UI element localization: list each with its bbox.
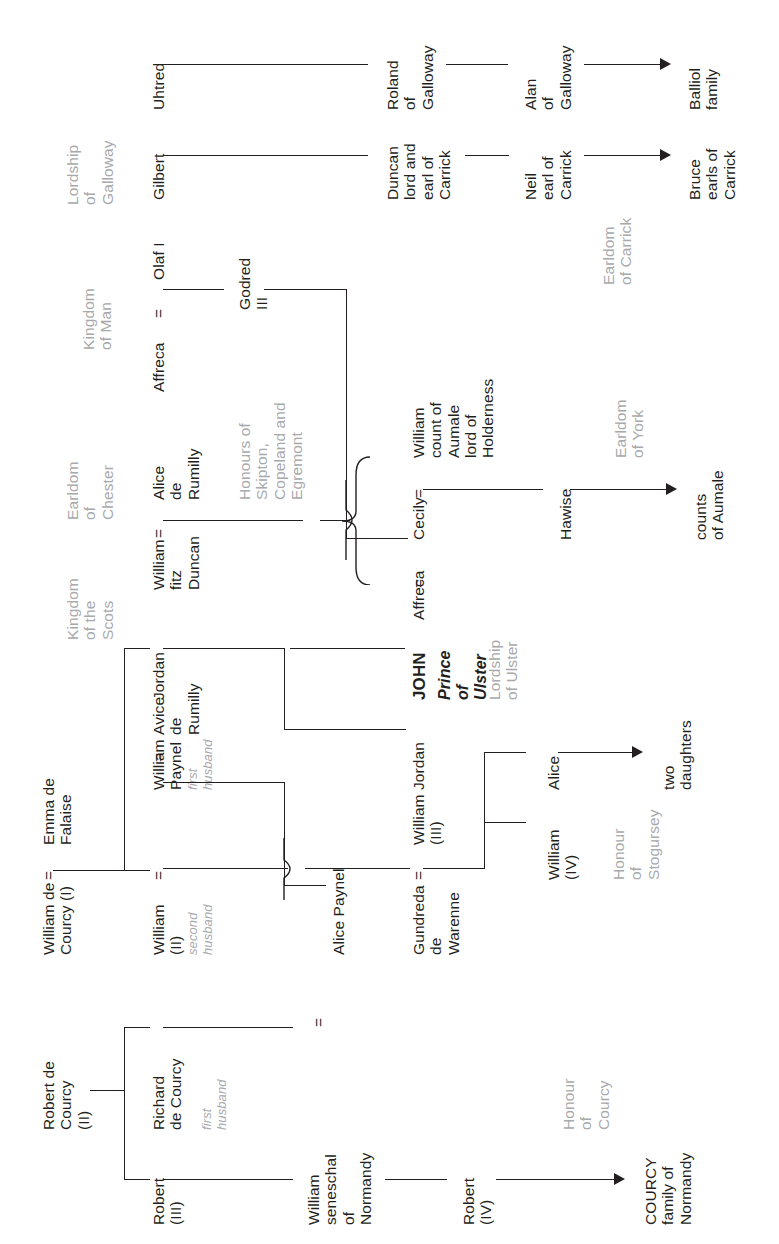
arrow-to-bruce-earls-of-carrick: [660, 149, 671, 161]
annotation-earldom-of-carrick: Earldom of Carrick: [600, 218, 635, 285]
line-hop-crossing-2: [268, 838, 308, 900]
person-alice-de-rumilly: Alice de Rumilly: [150, 448, 202, 500]
line-hawise-to-counts-of-aumale: [570, 489, 668, 490]
person-alice-daughter: Alice: [545, 756, 562, 790]
person-bruce-earls-of-carrick: Bruce earls of Carrick: [686, 148, 738, 200]
column-header-kingdom-of-man: Kingdom of Man: [80, 288, 115, 350]
line-wdc1-to-william-ii: [124, 870, 150, 871]
line-godred-right: [264, 289, 347, 290]
line-william-ii-marriage-b: [305, 868, 410, 869]
person-counts-of-aumale: counts of Aumale: [692, 470, 727, 540]
marriage-symbol-avice-william-ii: =: [150, 871, 167, 880]
person-william-iv: William (IV): [545, 829, 580, 880]
line-avice-paynel-stem: [163, 782, 285, 783]
line-wfd-marriage-a: [163, 520, 303, 521]
annotation-lordship-of-ulster: Lordship of Ulster: [486, 640, 521, 700]
marriage-symbol-avice-paynel: =: [150, 753, 167, 762]
person-alice-paynel: Alice Paynel: [330, 869, 347, 956]
line-william-iii-stem: [423, 868, 485, 869]
annotation-honour-of-stogursey: Honour of Stogursey: [610, 809, 662, 880]
person-gilbert: Gilbert: [150, 154, 167, 200]
line-jordan-branch-right: [284, 729, 406, 730]
line-alan-to-balliol: [584, 64, 662, 65]
person-richard-de-courcy: Richard de Courcy: [150, 1058, 185, 1130]
line-uhtred-to-roland: [163, 64, 368, 65]
marriage-symbol-richard-alice: =: [310, 1018, 327, 1027]
person-william-de-courcy-i: William de Courcy (I): [40, 883, 75, 955]
line-roland-to-alan: [446, 64, 508, 65]
person-robert-de-courcy-ii: Robert de Courcy (II): [40, 1061, 92, 1130]
person-neil-earl-of-carrick: Neil earl of Carrick: [522, 150, 574, 200]
person-alan-of-galloway: Alan of Galloway: [522, 45, 574, 110]
arrow-to-counts-of-aumale: [666, 483, 677, 495]
annotation-honours-skipton-copeland-egremont: Honours of Skipton, Copeland and Egremon…: [236, 402, 305, 500]
person-olaf-i: Olaf I: [150, 242, 167, 280]
line-to-richard-de-courcy: [124, 1027, 150, 1028]
person-william-ii: William (II): [150, 904, 185, 955]
annotation-honour-of-courcy: Honour of Courcy: [560, 1079, 612, 1130]
marriage-symbol-wdc1-emma: =: [40, 871, 57, 880]
person-william-count-of-aumale: William count of Aumale lord of Holderne…: [410, 379, 497, 458]
line-gilbert-to-duncan: [163, 155, 368, 156]
arrow-to-balliol-family: [660, 58, 671, 70]
brace-fitzduncan-children: [340, 455, 372, 585]
line-robert-iii-to-william-seneschal: [163, 1179, 293, 1180]
line-neil-to-bruce: [584, 155, 662, 156]
person-emma-de-falaise: Emma de Falaise: [40, 778, 75, 845]
person-duncan-lord-earl-of-carrick: Duncan lord and earl of Carrick: [384, 143, 453, 200]
person-jordan-mid: Jordan: [410, 742, 427, 790]
line-wdc1-marriage-stem: [53, 870, 125, 871]
line-jordan-branch-down: [284, 648, 285, 730]
line-robert-ii-stem: [90, 1090, 124, 1091]
marriage-symbol-wfd-alice: =: [150, 529, 167, 538]
person-uhtred: Uhtred: [150, 63, 167, 110]
line-robert-ii-children-bar: [124, 1027, 125, 1180]
person-affreca-olaf: Affreca: [150, 342, 167, 392]
line-to-john: [290, 648, 405, 649]
annotation-earldom-of-york: Earldom of York: [612, 400, 647, 458]
marriage-symbol-gundreda-william-iii: =: [410, 871, 427, 880]
line-to-robert-iii: [124, 1179, 150, 1180]
person-balliol-family: Balliol family: [686, 68, 721, 110]
line-jordan-right: [163, 648, 284, 649]
line-alice-to-two-daughters: [558, 752, 634, 753]
person-courcy-family-of-normandy: COURCY family of Normandy: [642, 1153, 694, 1225]
person-godred-iii: Godred III: [236, 258, 271, 310]
annotation-first-husband-richard: first husband: [200, 1079, 229, 1130]
person-william-seneschal-of-normandy: William seneschal of Normandy: [305, 1153, 374, 1225]
annotation-second-husband-courcy: second husband: [186, 904, 215, 955]
line-robert-iv-to-courcy-family: [496, 1179, 616, 1180]
person-gundreda-de-warenne: Gundreda de Warenne: [410, 885, 462, 955]
line-to-alice-daughter: [484, 752, 526, 753]
line-duncan-to-neil: [465, 155, 509, 156]
column-header-earldom-of-chester: Earldom of Chester: [64, 462, 116, 520]
person-cecily: Cecily: [410, 497, 427, 540]
person-two-daughters: two daughters: [660, 720, 695, 790]
arrow-to-two-daughters: [632, 746, 643, 758]
line-cecily-to-hawise: [423, 489, 543, 490]
line-wdc1-children-bar: [124, 648, 125, 871]
person-hawise: Hawise: [557, 489, 574, 540]
person-william-iii: William (III): [410, 794, 445, 845]
line-wdc1-to-jordan: [124, 648, 150, 649]
person-robert-iv: Robert (IV): [460, 1178, 495, 1225]
person-avice-de-rumilly: Avice de Rumilly: [150, 683, 202, 735]
column-header-kingdom-of-the-scots: Kingdom of the Scots: [64, 578, 116, 640]
person-roland-of-galloway: Roland of Galloway: [384, 45, 436, 110]
line-seneschal-to-robert-iv: [385, 1179, 447, 1180]
marriage-symbol-olaf-affreca: =: [150, 309, 167, 318]
person-john: JOHN: [410, 652, 429, 700]
line-olaf-marriage-down: [163, 289, 224, 290]
person-john-title: Prince of Ulster: [436, 650, 490, 700]
line-william-iii-children-bar: [484, 752, 485, 869]
person-william-fitz-duncan: William fitz Duncan: [150, 536, 202, 590]
genealogy-diagram: Lordship of Galloway Kingdom of Man Earl…: [0, 0, 779, 1244]
person-robert-iii: Robert (III): [150, 1178, 185, 1225]
line-to-william-iv: [484, 822, 526, 823]
line-richard-to-alice-paynel: [163, 1027, 293, 1028]
arrow-to-courcy-family-of-normandy: [614, 1173, 625, 1185]
person-affreca-john: Affreca: [410, 570, 427, 620]
column-header-lordship-of-galloway: Lordship of Galloway: [64, 140, 116, 205]
